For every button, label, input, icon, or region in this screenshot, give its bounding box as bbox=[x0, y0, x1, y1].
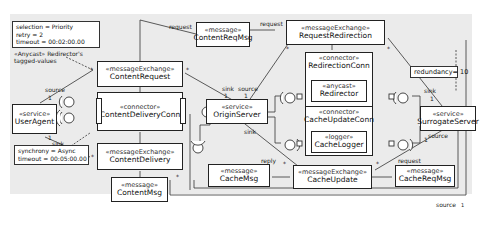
redirector-tagged-values-note: selection = Priority retry = 2 timeout =… bbox=[12, 21, 100, 48]
cache-msg-message[interactable]: «message» CacheMsg bbox=[208, 164, 270, 187]
element-name: OriginServer bbox=[213, 111, 260, 119]
note-line: timeout = 00:05:00.00 bbox=[18, 155, 85, 163]
element-name: RequestRedirection bbox=[299, 32, 372, 40]
request-redirection-exchange[interactable]: «messageExchange» RequestRedirection bbox=[286, 20, 385, 45]
cache-update-exchange[interactable]: «messageExchange» CacheUpdate bbox=[293, 165, 372, 189]
element-name: UserAgent bbox=[15, 118, 54, 126]
content-delivery-conn-connector[interactable]: «connector» ContentDeliveryConn bbox=[97, 92, 183, 131]
surrogate-server-service[interactable]: «service» SurrogateServer bbox=[420, 106, 476, 131]
label-source-surrogate: source bbox=[428, 132, 448, 139]
note-line: retry = 2 bbox=[16, 31, 96, 39]
label-sink-origin: sink bbox=[222, 85, 234, 92]
element-name: CacheLogger bbox=[314, 141, 363, 149]
label-one-surrogate-source: 1 bbox=[424, 136, 428, 143]
note-line: selection = Priority bbox=[16, 23, 96, 31]
label-sink-surrogate: sink bbox=[424, 87, 436, 94]
element-name: ContentDelivery bbox=[110, 156, 171, 164]
element-name: CacheUpdateConn bbox=[304, 116, 374, 124]
note-line: synchrony = Async bbox=[18, 147, 85, 155]
redirector-anycast[interactable]: «anycast» Redirector bbox=[311, 80, 367, 102]
label-reply: reply bbox=[261, 157, 276, 164]
note-line: redundancy= 10 bbox=[414, 68, 468, 76]
label-one-origin-sink: 1 bbox=[224, 92, 228, 99]
cache-logger-logger[interactable]: «logger» CacheLogger bbox=[311, 131, 367, 153]
cache-req-msg-message[interactable]: «message» CacheReqMsg bbox=[395, 165, 455, 187]
label-source-bottom: source bbox=[436, 201, 456, 208]
label-source-useragent: source bbox=[45, 86, 65, 93]
element-name: RedirectionConn bbox=[308, 62, 370, 70]
caption-line: «Anycast» Redirector's bbox=[14, 50, 83, 57]
content-msg-message[interactable]: «message» ContentMsg bbox=[111, 177, 168, 202]
multiplicity-star: * bbox=[90, 66, 93, 73]
label-one-origin-source: 1 bbox=[244, 92, 248, 99]
multiplicity-star: * bbox=[186, 66, 189, 73]
multiplicity-star: * bbox=[283, 160, 286, 167]
label-request-right: request bbox=[260, 20, 283, 27]
element-name: ContentMsg bbox=[117, 189, 162, 197]
label-request-cache: request bbox=[398, 157, 421, 164]
element-name: ContentReqMsg bbox=[193, 34, 252, 42]
multiplicity-star: * bbox=[376, 160, 379, 167]
connector-port-right bbox=[180, 98, 186, 124]
element-name: CacheUpdate bbox=[307, 176, 358, 184]
label-sink-origin-bottom: sink bbox=[244, 128, 256, 135]
user-agent-service[interactable]: «service» UserAgent bbox=[12, 104, 57, 134]
caption-line: tagged-values bbox=[14, 57, 83, 64]
content-delivery-exchange[interactable]: «messageExchange» ContentDelivery bbox=[97, 143, 183, 170]
label-source-origin: source bbox=[238, 85, 258, 92]
element-name: CacheMsg bbox=[220, 175, 258, 183]
element-name: Redirector bbox=[320, 90, 359, 98]
element-name: ContentRequest bbox=[110, 73, 170, 81]
connector-port-left bbox=[96, 98, 102, 124]
multiplicity-star: * bbox=[176, 173, 179, 180]
delivery-tagged-values-note: synchrony = Async timeout = 00:05:00.00 bbox=[14, 145, 89, 165]
origin-server-service[interactable]: «service» OriginServer bbox=[206, 99, 268, 124]
label-sink-useragent: sink bbox=[52, 140, 64, 147]
label-request-left: request bbox=[169, 23, 192, 30]
content-request-exchange[interactable]: «messageExchange» ContentRequest bbox=[97, 61, 183, 87]
element-name: ContentDeliveryConn bbox=[100, 111, 180, 119]
multiplicity-star: * bbox=[91, 153, 94, 160]
label-one-surrogate-sink: 1 bbox=[430, 95, 434, 102]
note-line: timeout = 00:02:00.00 bbox=[16, 38, 96, 46]
redundancy-note: redundancy= 10 bbox=[410, 66, 458, 78]
element-name: CacheReqMsg bbox=[399, 175, 452, 183]
content-req-msg-message[interactable]: «message» ContentReqMsg bbox=[196, 22, 250, 47]
redirector-caption: «Anycast» Redirector's tagged-values bbox=[14, 50, 83, 64]
label-one-useragent-top: 1 bbox=[48, 94, 52, 101]
multiplicity-star: * bbox=[387, 45, 390, 52]
label-one-bottom: 1 bbox=[461, 202, 464, 208]
multiplicity-star: * bbox=[286, 45, 289, 52]
element-name: SurrogateServer bbox=[417, 118, 478, 126]
